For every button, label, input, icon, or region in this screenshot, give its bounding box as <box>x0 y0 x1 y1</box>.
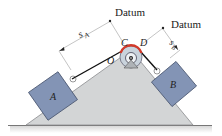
datum-point-left <box>109 20 111 22</box>
block-b-label: B <box>170 79 176 90</box>
datum-label-left: Datum <box>115 6 145 18</box>
arrowhead-sa-start <box>59 47 65 51</box>
pulley <box>120 45 142 68</box>
point-o-label: O <box>107 55 114 66</box>
svg-text:A: A <box>82 31 91 41</box>
point-c-label: C <box>121 37 128 48</box>
hook-b-icon <box>154 68 160 74</box>
point-d-label: D <box>139 37 148 48</box>
ground-shadow <box>10 126 212 133</box>
sb-label: s B <box>167 37 180 51</box>
datum-point-right <box>162 27 164 29</box>
datum-label-right: Datum <box>171 18 201 30</box>
block-a-label: A <box>49 91 57 102</box>
pulley-incline-diagram: Datum Datum C D O A B s A s B <box>0 0 222 136</box>
